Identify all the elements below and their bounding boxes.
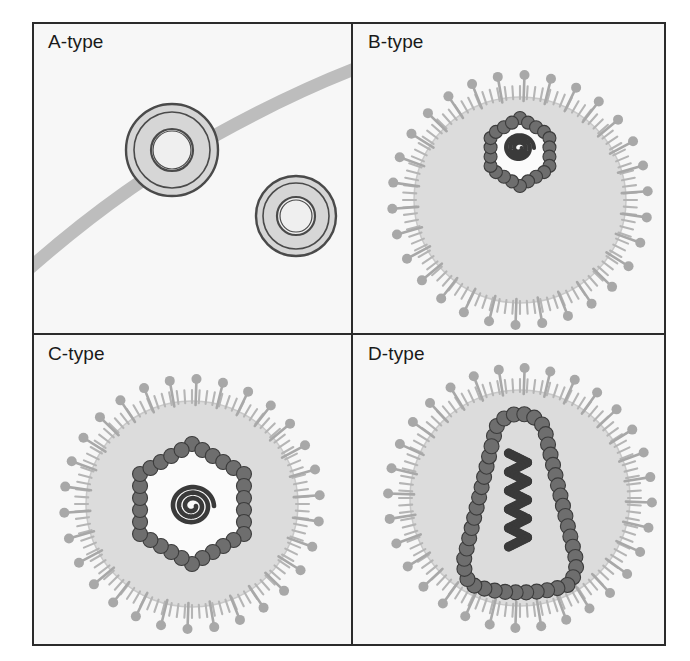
panel-label-d-type: D-type — [368, 343, 425, 364]
panel-label-b-type: B-type — [368, 31, 424, 52]
a-type-particle-1 — [126, 104, 218, 196]
panel-label-c-type: C-type — [48, 343, 105, 364]
particle-core-hole — [280, 200, 312, 232]
panel-label-a-type: A-type — [48, 31, 104, 52]
a-type-particle-2 — [256, 176, 336, 256]
particle-core-hole — [153, 131, 191, 169]
virus-morphology-figure: A-type B-type C-type D-type — [0, 0, 690, 661]
figure-canvas: A-type B-type C-type D-type — [0, 0, 690, 661]
